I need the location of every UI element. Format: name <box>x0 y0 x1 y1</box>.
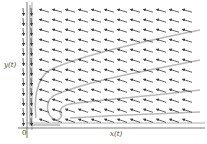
x-axis-label: x(t) <box>110 130 122 138</box>
field-arrow-icon <box>119 40 127 42</box>
field-arrow-icon <box>80 30 88 32</box>
trajectory-curves <box>30 5 200 125</box>
field-arrow-icon <box>67 100 75 103</box>
field-arrow-icon <box>41 90 49 93</box>
field-arrow-icon <box>67 20 75 22</box>
field-arrow-icon <box>119 80 127 83</box>
field-arrow-icon <box>145 50 153 52</box>
field-arrow-icon <box>158 110 166 113</box>
field-arrow-icon <box>93 30 101 32</box>
field-arrow-icon <box>184 20 192 22</box>
field-arrow-icon <box>132 60 140 63</box>
field-arrow-icon <box>54 40 62 42</box>
field-arrow-icon <box>145 110 153 113</box>
field-arrow-icon <box>158 20 166 22</box>
field-arrow-icon <box>171 40 179 42</box>
field-arrow-icon <box>132 40 140 42</box>
field-arrow-icon <box>54 50 62 52</box>
field-arrow-icon <box>31 88 32 94</box>
field-arrow-icon <box>31 78 32 84</box>
field-arrow-icon <box>171 80 179 83</box>
field-arrow-icon <box>132 120 140 123</box>
field-arrow-icon <box>23 18 24 24</box>
origin-label: 0 <box>22 129 26 137</box>
field-arrow-icon <box>106 10 114 12</box>
field-arrow-icon <box>23 98 24 104</box>
field-arrow-icon <box>171 90 179 93</box>
field-arrow-icon <box>80 70 88 73</box>
field-arrow-icon <box>31 108 32 114</box>
field-arrow-icon <box>31 118 32 124</box>
field-arrow-icon <box>106 120 114 123</box>
field-arrow-icon <box>93 90 101 93</box>
field-arrow-icon <box>171 20 179 22</box>
field-arrow-icon <box>158 50 166 52</box>
field-arrow-icon <box>171 100 179 103</box>
field-arrow-icon <box>23 48 24 54</box>
field-arrow-icon <box>184 10 192 12</box>
field-arrow-icon <box>184 100 192 103</box>
field-arrow-icon <box>171 10 179 12</box>
field-arrow-icon <box>80 120 88 123</box>
field-arrow-icon <box>41 50 49 52</box>
field-arrow-icon <box>80 10 88 12</box>
field-arrow-icon <box>158 70 166 73</box>
field-arrow-icon <box>67 110 75 113</box>
field-arrow-icon <box>171 50 179 52</box>
field-arrow-icon <box>119 120 127 123</box>
field-arrow-icon <box>31 38 32 44</box>
field-arrow-icon <box>67 90 75 93</box>
field-arrow-icon <box>54 90 62 93</box>
field-arrow-icon <box>184 80 192 83</box>
field-arrow-icon <box>41 120 49 123</box>
field-arrow-icon <box>41 20 49 22</box>
field-arrow-icon <box>119 50 127 52</box>
field-arrow-icon <box>93 110 101 113</box>
field-arrow-icon <box>184 70 192 73</box>
field-arrow-icon <box>145 10 153 12</box>
field-arrow-icon <box>67 70 75 73</box>
axes <box>18 2 205 138</box>
field-arrow-icon <box>145 90 153 93</box>
field-arrow-icon <box>67 10 75 12</box>
field-arrow-icon <box>80 110 88 113</box>
field-arrow-icon <box>119 20 127 22</box>
field-arrow-icon <box>80 80 88 83</box>
field-arrow-icon <box>93 40 101 42</box>
field-arrow-icon <box>54 20 62 22</box>
field-arrow-icon <box>106 70 114 73</box>
field-arrow-icon <box>171 120 179 123</box>
field-arrow-icon <box>41 10 49 12</box>
field-arrow-icon <box>54 80 62 83</box>
field-arrow-icon <box>80 40 88 42</box>
field-arrow-icon <box>93 50 101 52</box>
field-arrow-icon <box>93 70 101 73</box>
field-arrow-icon <box>23 28 24 34</box>
field-arrow-icon <box>80 60 88 63</box>
field-arrow-icon <box>145 20 153 22</box>
field-arrow-icon <box>93 120 101 123</box>
field-arrow-icon <box>23 88 24 94</box>
field-arrow-icon <box>67 30 75 32</box>
trajectory <box>35 30 200 118</box>
field-arrow-icon <box>132 90 140 93</box>
field-arrow-icon <box>23 58 24 64</box>
field-arrow-icon <box>145 60 153 63</box>
field-arrow-icon <box>119 10 127 12</box>
field-arrow-icon <box>132 20 140 22</box>
field-arrow-icon <box>54 100 62 103</box>
field-arrow-icon <box>171 70 179 73</box>
field-arrow-icon <box>158 120 166 123</box>
y-axis-label: y(t) <box>4 61 16 69</box>
field-arrow-icon <box>171 110 179 113</box>
field-arrow-icon <box>41 30 49 32</box>
field-arrow-icon <box>132 80 140 83</box>
field-arrow-icon <box>106 110 114 113</box>
field-arrow-icon <box>67 40 75 42</box>
field-arrow-icon <box>171 30 179 32</box>
field-arrow-icon <box>119 100 127 103</box>
field-arrow-icon <box>106 80 114 83</box>
trajectory <box>70 112 200 118</box>
field-arrow-icon <box>67 50 75 52</box>
field-arrow-icon <box>106 90 114 93</box>
